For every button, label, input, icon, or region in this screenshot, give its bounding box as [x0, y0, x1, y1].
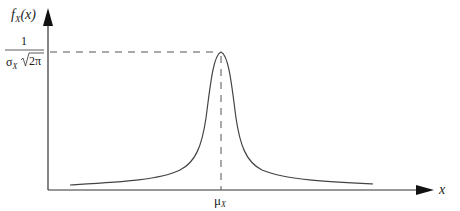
density-diagram: fX(x) 1 σX 2π μX x	[0, 0, 460, 211]
peak-label-root: 2π	[29, 54, 41, 68]
x-axis-arrow-icon	[416, 185, 434, 195]
y-axis-arrow-icon	[43, 8, 53, 26]
mean-label: μX	[214, 193, 227, 209]
peak-label-numerator: 1	[21, 34, 27, 48]
peak-label-denominator: σX	[6, 55, 18, 71]
y-axis-label: fX(x)	[11, 7, 36, 24]
x-axis-label: x	[438, 182, 446, 197]
